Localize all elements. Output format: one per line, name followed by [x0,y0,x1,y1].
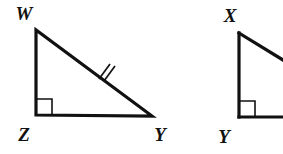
vertex-label-x: X [223,5,238,26]
vertex-label-z: Z [17,124,30,145]
vertex-label-w: W [16,3,34,24]
figure-svg: W Z Y X Y [0,0,283,154]
geometry-figure: W Z Y X Y [0,0,283,154]
